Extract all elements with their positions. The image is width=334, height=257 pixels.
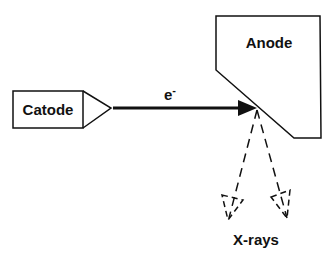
xray-right-ray [257, 110, 287, 218]
xray-left-arrowhead-icon [222, 195, 243, 220]
cathode: Catode [13, 91, 111, 128]
cathode-tip [83, 91, 111, 128]
xrays: X-rays [222, 110, 290, 248]
beam-label: e- [164, 84, 176, 103]
xray-right-arrowhead-icon [271, 190, 290, 218]
anode-label: Anode [246, 34, 293, 51]
xray-left-ray [229, 110, 257, 218]
xray-tube-diagram: Catode e- Anode X-rays [0, 0, 334, 257]
xrays-label: X-rays [233, 231, 279, 248]
anode: Anode [216, 16, 321, 138]
cathode-label: Catode [23, 101, 74, 118]
electron-beam: e- [113, 84, 257, 116]
